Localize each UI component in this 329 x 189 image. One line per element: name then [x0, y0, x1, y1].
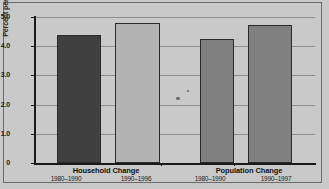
- scan-speck: [176, 97, 180, 100]
- gridline-5: [35, 17, 315, 18]
- bar-population-1980-1990: [200, 39, 234, 163]
- y-tick-label-0: 0: [0, 159, 10, 166]
- y-tick-label-3: 3.0: [0, 71, 10, 78]
- y-tick-label-2: 2.0: [0, 101, 10, 108]
- y-tick-label-5: 5.0: [0, 13, 10, 20]
- x-axis-line: [34, 163, 316, 165]
- y-axis-line: [34, 16, 36, 164]
- group-label-population: Population Change: [189, 166, 309, 175]
- bar-household-1980-1990: [57, 35, 101, 163]
- bar-household-1990-1996: [115, 23, 160, 163]
- group-label-household: Household Change: [46, 166, 166, 175]
- y-tick-label-1: 1.0: [0, 130, 10, 137]
- plot-area: 5.0 4.0 3.0 2.0 1.0 0: [35, 17, 315, 163]
- bar-population-1990-1997: [248, 25, 292, 163]
- period-label-household-1: 1980–1990: [26, 175, 106, 182]
- y-tick-label-4: 4.0: [0, 42, 10, 49]
- scan-speck-2: [187, 90, 189, 92]
- chart-frame: Percent per Year 5.0 4.0 3.0 2.0 1.0 0: [3, 2, 322, 183]
- period-label-household-2: 1990–1996: [96, 175, 176, 182]
- period-label-population-2: 1990–1997: [236, 175, 316, 182]
